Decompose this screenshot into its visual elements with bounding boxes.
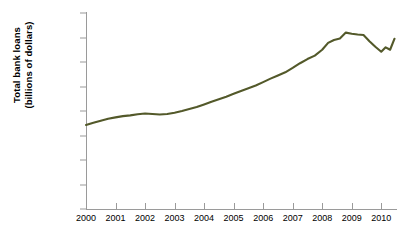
chart-page: Total bank loans (billions of dollars) 0… — [0, 0, 400, 235]
chart-plot-area — [0, 0, 400, 235]
data-series-line — [86, 33, 395, 125]
